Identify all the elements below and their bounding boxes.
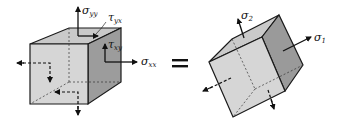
sigma-yy-label: σyy — [82, 4, 98, 18]
stress-diagram: σyy τyx τxy σxx σ2 σ1 — [0, 0, 340, 125]
sigma-2-down-arrowhead — [271, 99, 274, 109]
sigma-1-left-arrowhead — [203, 87, 212, 91]
sigma-xx-label: σxx — [141, 55, 156, 69]
right-principal-cube: σ2 σ1 — [203, 9, 326, 117]
left-stress-cube: σyy τyx τxy σxx — [17, 4, 156, 115]
sigma-1-label: σ1 — [314, 31, 326, 45]
tau-yx-label: τyx — [108, 11, 122, 25]
left-cube-front-face — [30, 44, 88, 104]
sigma-2-label: σ2 — [241, 9, 254, 23]
equals-sign — [172, 59, 188, 67]
